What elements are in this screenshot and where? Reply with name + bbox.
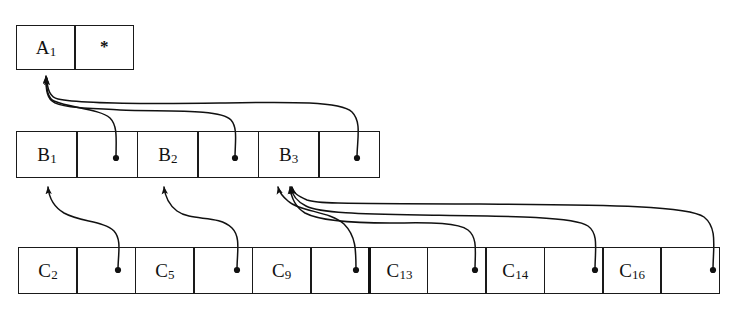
- node-cell-subscript: 2: [171, 151, 178, 166]
- node-cell-c2[interactable]: C2: [18, 247, 78, 294]
- pointer-cell-c2[interactable]: [76, 247, 136, 294]
- node-cell-c5[interactable]: C5: [135, 247, 195, 294]
- node-cell-a-marker[interactable]: *: [74, 25, 134, 70]
- node-cell-label: B2: [158, 145, 177, 165]
- pointer-cell-b1[interactable]: [76, 131, 138, 178]
- index-node-level-b: B1 B2 B3: [16, 131, 380, 178]
- node-cell-label: A1: [36, 38, 56, 58]
- node-cell-label: C2: [38, 261, 57, 281]
- node-cell-b2[interactable]: B2: [137, 131, 199, 178]
- node-cell-subscript: 9: [285, 267, 292, 282]
- node-cell-label: C9: [272, 261, 291, 281]
- node-cell-label: B1: [37, 145, 56, 165]
- node-cell-subscript: 14: [515, 267, 528, 282]
- node-cell-b3[interactable]: B3: [258, 131, 320, 178]
- node-cell-subscript: 5: [168, 267, 175, 282]
- index-node-level-c: C2 C5 C9 C13 C14 C16: [18, 247, 720, 294]
- node-cell-subscript: 1: [50, 44, 57, 59]
- node-cell-c16[interactable]: C16: [602, 247, 662, 294]
- node-cell-label: C16: [619, 261, 645, 281]
- pointer-cell-c5[interactable]: [193, 247, 253, 294]
- node-cell-subscript: 13: [399, 267, 412, 282]
- diagram-canvas: A1 * B1 B2 B3 C2 C5 C9: [0, 0, 744, 324]
- node-cell-c9[interactable]: C9: [252, 247, 312, 294]
- node-cell-label: C13: [387, 261, 413, 281]
- index-node-level-a: A1 *: [16, 25, 134, 70]
- pointer-cell-c16[interactable]: [660, 247, 720, 294]
- node-cell-subscript: 16: [632, 267, 645, 282]
- pointer-cell-c14[interactable]: [544, 247, 604, 294]
- node-cell-b1[interactable]: B1: [16, 131, 78, 178]
- pointer-cell-c9[interactable]: [310, 247, 370, 294]
- node-cell-a1[interactable]: A1: [16, 25, 76, 70]
- node-cell-subscript: 2: [51, 267, 58, 282]
- node-cell-c13[interactable]: C13: [368, 247, 428, 294]
- node-cell-subscript: 1: [50, 151, 57, 166]
- node-cell-label: *: [100, 42, 109, 52]
- node-cell-label: B3: [279, 145, 298, 165]
- pointer-cell-b2[interactable]: [197, 131, 259, 178]
- pointer-cell-c13[interactable]: [427, 247, 487, 294]
- node-cell-label: C5: [155, 261, 174, 281]
- node-cell-label: C14: [502, 261, 528, 281]
- node-cell-c14[interactable]: C14: [485, 247, 545, 294]
- node-cell-subscript: 3: [292, 151, 299, 166]
- pointer-cell-b3[interactable]: [318, 131, 380, 178]
